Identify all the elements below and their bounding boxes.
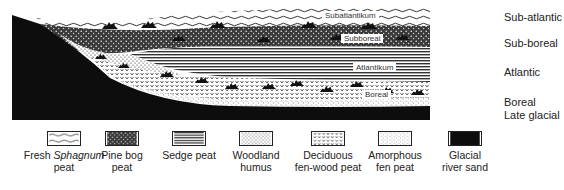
legend-label-line1: Amorphous: [368, 149, 422, 161]
fresh-sphagnum-swatch: [47, 131, 81, 146]
legend-sedge-peat: Sedge peat: [154, 131, 224, 161]
inner-label-boreal: Boreal: [362, 90, 391, 99]
period-label-boreal: Boreal: [504, 96, 536, 108]
glacial-river-sand-swatch: [448, 131, 482, 146]
legend-amorphous-fen-peat: Amorphous fen peat: [362, 131, 428, 173]
period-label-sub-atlantic: Sub-atlantic: [504, 11, 562, 23]
legend-label-line2: humus: [240, 161, 272, 173]
legend-label-line1: Deciduous: [303, 149, 353, 161]
woodland-humus-swatch: [239, 131, 273, 146]
sedge-swatch: [172, 131, 206, 146]
legend-glacial-river-sand: Glacial river sand: [432, 131, 498, 173]
legend-deciduous-fen-wood-peat: Deciduous fen-wood peat: [286, 131, 370, 173]
legend-label-line2: river sand: [442, 161, 488, 173]
inner-label-atlantikum: Atlantikum: [353, 63, 396, 72]
legend-label-line1: Pine bog: [101, 149, 142, 161]
period-label-atlantic: Atlantic: [504, 66, 540, 78]
period-label-late-glacial: Late glacial: [504, 109, 560, 121]
legend-label-line2: peat: [112, 161, 132, 173]
inner-label-subatlantikum: Subatlantikum: [322, 11, 379, 20]
period-label-sub-boreal: Sub-boreal: [504, 37, 558, 49]
legend-label-line1: Woodland: [232, 149, 279, 161]
legend-pine-bog-peat: Pine bog peat: [96, 131, 148, 173]
legend-woodland-humus: Woodland humus: [226, 131, 286, 173]
inner-label-subboreal: Subboreal: [341, 34, 383, 43]
deciduous-fen-wood-swatch: [311, 131, 345, 146]
legend-label-line1: Fresh: [24, 149, 54, 161]
legend-label-line1: Sedge peat: [162, 149, 216, 161]
legend-label-line2: peat: [54, 161, 74, 173]
amorphous-fen-swatch: [378, 131, 412, 146]
pine-bog-swatch: [105, 131, 139, 146]
legend-label-line2: fen-wood peat: [295, 161, 362, 173]
legend-label-line2: fen peat: [376, 161, 414, 173]
legend-label-line1: Glacial: [449, 149, 481, 161]
